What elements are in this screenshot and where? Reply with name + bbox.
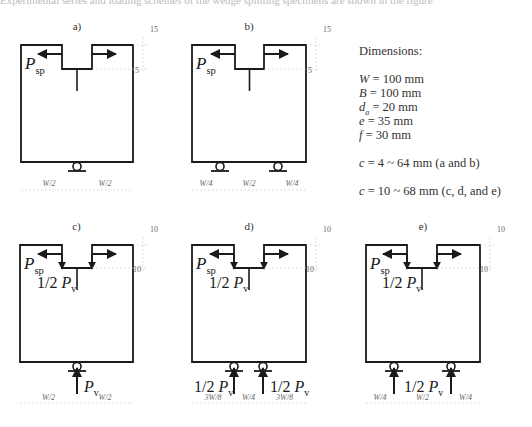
span-label: W/2: [42, 393, 55, 402]
reaction-force-label: Pv: [83, 378, 99, 398]
span-label: W/2: [99, 393, 112, 402]
splitting-force-label: Psp: [23, 254, 44, 276]
dimension-bottom-value: 10: [306, 265, 314, 274]
dimension-item: W = 100 mm: [359, 72, 501, 86]
span-label: 3W/8: [204, 393, 222, 402]
panel-c: c)Psp1/2 Pv1010PvW/2W/2: [20, 220, 158, 403]
span-label: W/4: [242, 393, 255, 402]
roller-support-icon: [274, 163, 282, 171]
dimension-bottom-value: 5: [308, 66, 312, 75]
half-vertical-load-label: 1/2 Pv: [37, 274, 76, 294]
roller-support-icon: [73, 163, 81, 171]
span-label: W/2: [99, 179, 112, 188]
dimension-bottom-value: 10: [133, 265, 141, 274]
specimen-outline: [21, 45, 133, 162]
panel-d: d)Psp1/2 Pv10101/2 Pv1/2 Pv3W/8W/43W/8: [192, 220, 331, 403]
dimension-note-cde: c = 10 ~ 68 mm (c, d, and e): [359, 184, 501, 198]
dimensions-title: Dimensions:: [359, 44, 501, 58]
dimension-top-value: 10: [323, 225, 331, 234]
span-label: W/4: [459, 393, 472, 402]
dimension-top-value: 10: [150, 225, 158, 234]
specimen-outline: [192, 45, 306, 162]
dimension-top-value: 10: [497, 225, 505, 234]
dimension-item: B = 100 mm: [359, 86, 501, 100]
dimension-top-value: 15: [323, 25, 331, 34]
panel-label: a): [73, 20, 82, 33]
half-vertical-load-label: 1/2 Pv: [382, 274, 421, 294]
dimension-bottom-value: 5: [135, 66, 139, 75]
dimension-bottom-value: 10: [480, 265, 488, 274]
span-label: W/2: [416, 393, 429, 402]
span-label: W/4: [374, 393, 387, 402]
panel-label: e): [419, 220, 428, 233]
span-label: W/4: [200, 179, 213, 188]
specimen-outline: [20, 245, 133, 362]
dimension-item: f = 30 mm: [359, 128, 501, 142]
panel-label: d): [244, 220, 254, 233]
splitting-force-label: Psp: [24, 54, 45, 76]
splitting-force-label: Psp: [369, 254, 390, 276]
specimen-outline: [192, 245, 306, 362]
splitting-force-label: Psp: [195, 254, 216, 276]
panel-label: c): [72, 220, 81, 233]
splitting-force-label: Psp: [195, 54, 216, 76]
span-label: W/2: [243, 179, 256, 188]
panel-e: e)Psp1/2 Pv10101/2 PvW/4W/2W/4: [366, 220, 505, 403]
panel-a: a)Psp155W/2W/2: [21, 20, 158, 190]
span-label: 3W/8: [275, 393, 293, 402]
dimension-top-value: 15: [150, 25, 158, 34]
span-label: W/2: [43, 179, 56, 188]
dimensions-items: W = 100 mmB = 100 mmda = 20 mme = 35 mmf…: [359, 72, 501, 142]
specimen-outline: [366, 245, 480, 362]
dimensions-legend: Dimensions: W = 100 mmB = 100 mmda = 20 …: [359, 44, 501, 198]
span-label: W/4: [286, 179, 299, 188]
half-vertical-load-label: 1/2 Pv: [209, 274, 248, 294]
panel-label: b): [244, 20, 254, 33]
dimension-item: e = 35 mm: [359, 114, 501, 128]
dimension-item: da = 20 mm: [359, 100, 501, 114]
roller-support-icon: [216, 163, 224, 171]
dimension-note-ab: c = 4 ~ 64 mm (a and b): [359, 156, 501, 170]
panel-b: b)Psp155W/4W/2W/4: [192, 20, 331, 190]
